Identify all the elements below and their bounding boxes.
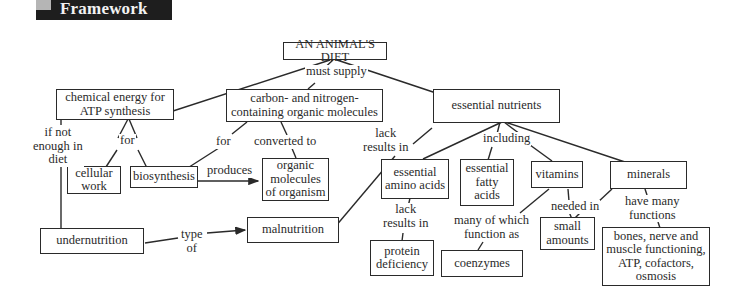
node-animal-diet: AN ANIMAL'S DIET [283, 42, 387, 60]
link-label-converted-to: converted to [253, 135, 317, 149]
link-label-for-biosynthesis: for [215, 135, 232, 149]
link-label-lack-results-in: lack results in [362, 127, 409, 154]
link-label-have-many-functions: have many functions [624, 195, 681, 222]
node-organic-molecules: organic molecules of organism [262, 158, 329, 201]
node-coenzymes: coenzymes [441, 250, 523, 277]
link-label-many-of-which: many of which function as [453, 214, 530, 241]
node-cellular-work: cellular work [67, 166, 121, 194]
link-label-type-of: type of [180, 228, 204, 255]
node-malnutrition: malnutrition [247, 217, 339, 243]
link-label-including: including [482, 132, 531, 146]
node-carbon-nitrogen-molecules: carbon- and nitrogen- containing organic… [226, 89, 383, 122]
link-label-must-supply: must supply [305, 65, 368, 79]
node-vitamins: vitamins [531, 161, 583, 188]
node-essential-amino-acids: essential amino acids [381, 159, 449, 199]
node-minerals: minerals [610, 161, 687, 189]
node-protein-deficiency: protein deficiency [370, 240, 434, 276]
link-label-needed-in: needed in [550, 200, 600, 214]
link-label-for-cellular: for [119, 134, 136, 148]
node-essential-nutrients: essential nutrients [433, 89, 560, 123]
link-label-lack-results-in-protein: lack results in [382, 203, 429, 230]
link-label-produces: produces [206, 164, 253, 178]
node-undernutrition: undernutrition [40, 228, 144, 254]
node-biosynthesis: biosynthesis [130, 166, 198, 188]
node-chemical-energy: chemical energy for ATP synthesis [56, 89, 174, 120]
node-bones-nerve-functions: bones, nerve and muscle functioning, ATP… [602, 227, 710, 286]
node-essential-fatty-acids: essential fatty acids [460, 159, 514, 206]
link-label-if-not-enough: if not enough in diet [32, 126, 84, 167]
node-small-amounts: small amounts [540, 217, 595, 250]
